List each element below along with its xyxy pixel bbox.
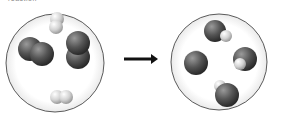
dark-diatomic-molecule — [66, 31, 90, 69]
products-container — [171, 14, 267, 110]
reactants-container — [6, 12, 104, 112]
light-diatomic-molecule — [50, 90, 73, 104]
reaction-diagram — [0, 0, 281, 118]
dark-light-molecule — [233, 47, 257, 71]
right-arrow-icon — [124, 54, 158, 64]
light-diatomic-molecule — [49, 12, 64, 34]
